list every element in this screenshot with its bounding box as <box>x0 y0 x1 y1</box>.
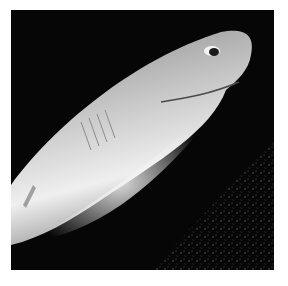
shark-eye <box>209 48 219 56</box>
shark-illustration <box>11 10 274 270</box>
shark-photo <box>11 10 274 270</box>
